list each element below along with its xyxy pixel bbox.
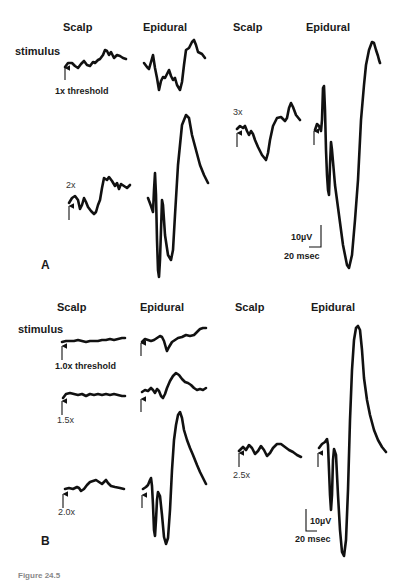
panel-a-epidural-3x-trace [315, 42, 380, 268]
panel-b-scalp-2-0x-trace [65, 480, 124, 491]
panel-a-scalp-3x-trace [237, 103, 300, 160]
panel-a-scalp-2x-trace [69, 177, 130, 214]
panel-b-epidural-1-0x-trace [142, 328, 206, 351]
panel-b-epidural-2-0x-trace [143, 412, 206, 544]
panel-b-epidural-2-5x-trace [319, 326, 386, 556]
panel-b-scalp-1-5x-trace [63, 393, 125, 398]
panel-b-scalp-1-0x-trace [62, 338, 125, 342]
panel-b-scale-bar [306, 509, 317, 531]
panel-b-scalp-2-5x-trace [239, 444, 301, 457]
panel-a-epidural-1x-trace [144, 40, 205, 90]
panel-b-epidural-1-5x-trace [142, 373, 206, 398]
panel-a-epidural-2x-trace [148, 115, 208, 277]
panel-a-scale-bar [309, 225, 321, 247]
panel-a-scalp-1x-trace [65, 50, 126, 68]
